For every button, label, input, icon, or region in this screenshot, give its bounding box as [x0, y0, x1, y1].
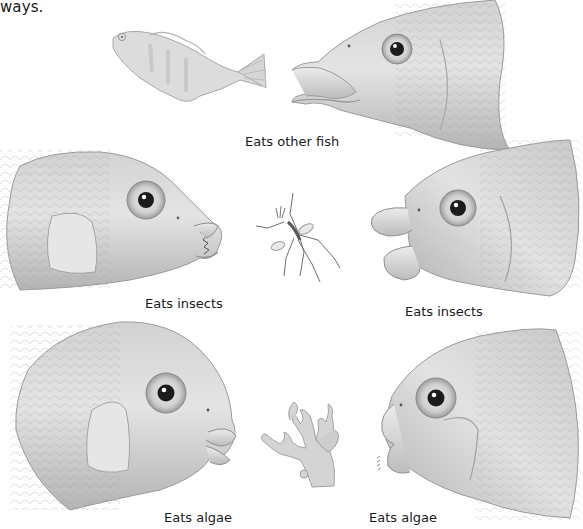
fish-head-icon: [377, 329, 580, 520]
label-eats-other-fish: Eats other fish: [245, 134, 339, 149]
fish-head-icon: [371, 140, 580, 296]
label-eats-insects-left: Eats insects: [145, 296, 223, 311]
label-eats-algae-left: Eats algae: [164, 510, 232, 525]
label-eats-insects-right: Eats insects: [405, 304, 483, 319]
fish-head-icon: [292, 0, 510, 150]
label-eats-algae-right: Eats algae: [369, 510, 437, 525]
fish-head-icon: [10, 322, 236, 510]
algae-icon: [262, 402, 339, 487]
fish-head-icon: [0, 150, 222, 290]
insect-icon: [256, 193, 340, 282]
fish-diagram-illustration: [0, 0, 583, 529]
small-fish-icon: [113, 31, 266, 101]
